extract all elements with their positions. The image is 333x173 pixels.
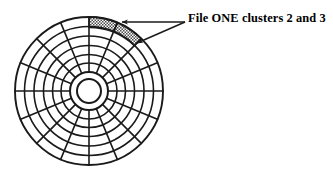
- annotation-label: File ONE clusters 2 and 3: [188, 11, 326, 25]
- hub-inner-circle: [77, 79, 101, 103]
- disk-platter-figure: File ONE clusters 2 and 3: [0, 0, 333, 173]
- arrow-down-left-icon: [137, 22, 185, 43]
- disk-diagram: [0, 0, 333, 173]
